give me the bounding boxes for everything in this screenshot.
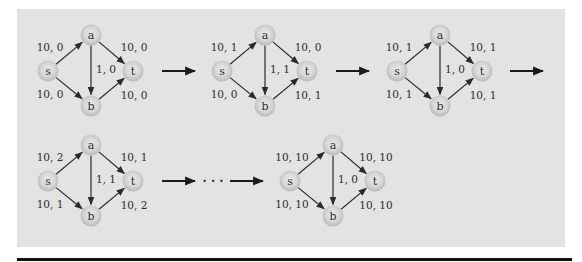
edge-sb-label: 10, 1 (386, 88, 413, 100)
edge-ab-label: 1, 1 (270, 63, 290, 75)
edge-ab-label: 1, 0 (445, 63, 465, 75)
node-t-label: t (305, 65, 310, 78)
node-a-label: a (88, 29, 95, 42)
node-b-label: b (436, 100, 443, 113)
node-t-label: t (131, 175, 136, 188)
edge-ab-label: 1, 1 (96, 173, 116, 185)
node-t-label: t (131, 65, 136, 78)
node-s-label: s (394, 65, 400, 78)
flow-graph: 10, 1010, 101, 010, 1010, 10sabt (275, 135, 392, 227)
edge-sb-label: 10, 10 (275, 198, 308, 210)
edge-bt-label: 10, 1 (295, 89, 322, 101)
edge-bt-label: 10, 2 (121, 199, 148, 211)
ellipsis: · · · (203, 174, 224, 188)
edge-at-label: 10, 1 (470, 41, 497, 53)
flow-graph: 10, 010, 01, 010, 010, 0sabt (37, 25, 148, 117)
edge-bt-label: 10, 1 (470, 89, 497, 101)
edge-at-label: 10, 10 (359, 151, 392, 163)
node-b-label: b (261, 100, 268, 113)
edge-sa-label: 10, 1 (386, 41, 413, 53)
node-b-label: b (87, 210, 94, 223)
node-s-label: s (45, 65, 51, 78)
edge-bt-label: 10, 0 (121, 89, 148, 101)
edge-sa-label: 10, 10 (275, 151, 308, 163)
flow-network-diagram: 10, 010, 01, 010, 010, 0sabt10, 110, 01,… (0, 0, 582, 262)
edge-sb-label: 10, 0 (211, 88, 238, 100)
edge-sa-label: 10, 0 (37, 41, 64, 53)
flow-graph: 10, 110, 11, 010, 110, 1sabt (386, 25, 497, 117)
edge-at-label: 10, 0 (121, 41, 148, 53)
node-t-label: t (373, 175, 378, 188)
edge-ab-label: 1, 0 (338, 173, 358, 185)
flow-graph: 10, 210, 11, 110, 110, 2sabt (37, 135, 148, 227)
node-b-label: b (329, 210, 336, 223)
edge-bt-label: 10, 10 (359, 199, 392, 211)
node-a-label: a (330, 139, 337, 152)
node-s-label: s (219, 65, 225, 78)
node-a-label: a (437, 29, 444, 42)
node-s-label: s (287, 175, 293, 188)
edge-at-label: 10, 1 (121, 151, 148, 163)
edge-sa-label: 10, 2 (37, 151, 64, 163)
edge-sb-label: 10, 0 (37, 88, 64, 100)
node-s-label: s (45, 175, 51, 188)
node-a-label: a (88, 139, 95, 152)
node-t-label: t (480, 65, 485, 78)
node-a-label: a (262, 29, 269, 42)
edge-sa-label: 10, 1 (211, 41, 238, 53)
edge-sb-label: 10, 1 (37, 198, 64, 210)
edge-ab-label: 1, 0 (96, 63, 116, 75)
node-b-label: b (87, 100, 94, 113)
flow-graph: 10, 110, 01, 110, 010, 1sabt (211, 25, 322, 117)
edge-at-label: 10, 0 (295, 41, 322, 53)
